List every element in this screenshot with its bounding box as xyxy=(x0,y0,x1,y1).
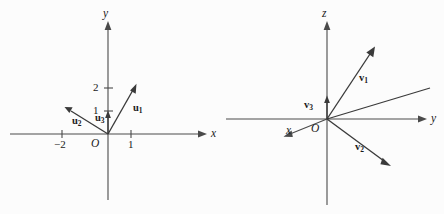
left-y-axis-label: y xyxy=(103,8,108,20)
vector-u3-label: u3 xyxy=(95,113,105,125)
right-x-axis-line xyxy=(290,119,327,134)
vector-u1-label: u1 xyxy=(133,103,143,115)
vector-v2-line xyxy=(327,119,384,161)
vector-u3-label-subscript: 3 xyxy=(101,116,105,125)
vector-v3-arrowhead xyxy=(324,96,330,104)
vector-v1-label-subscript: 1 xyxy=(364,76,368,85)
left-plot-group xyxy=(10,21,207,200)
vector-v2-label: v2 xyxy=(355,142,364,154)
right-y-axis-label: y xyxy=(431,113,436,125)
vector-u3-arrowhead xyxy=(105,111,111,119)
left-x-axis-arrowhead xyxy=(198,131,207,138)
left-y-tick-label-2: 2 xyxy=(93,82,99,93)
left-x-axis-label: x xyxy=(211,128,216,140)
vector-v1-line xyxy=(327,54,370,119)
vector-u2-arrowhead xyxy=(65,107,73,113)
right-z-axis-label: z xyxy=(322,8,326,20)
left-origin-label: O xyxy=(91,138,99,150)
vector-u2-label-subscript: 2 xyxy=(78,119,82,128)
vector-v1-arrowhead xyxy=(366,47,375,58)
vector-u2-label: u2 xyxy=(72,116,82,128)
vector-u1-line xyxy=(108,90,133,134)
left-x-tick-label-1: 1 xyxy=(128,139,134,150)
left-y-axis-arrowhead xyxy=(105,21,112,30)
vector-v3-label: v3 xyxy=(304,100,313,112)
vector-v2-label-subscript: 2 xyxy=(360,145,364,154)
vector-v1-label: v1 xyxy=(359,73,368,85)
right-origin-label: O xyxy=(311,123,319,135)
right-z-axis-arrowhead xyxy=(324,21,331,30)
diagram-canvas xyxy=(0,0,444,214)
right-plot-group xyxy=(226,21,430,205)
left-x-tick-label-minus2: −2 xyxy=(54,139,66,150)
vector-v3-label-subscript: 3 xyxy=(309,103,313,112)
right-x-axis-label: x xyxy=(286,125,291,137)
unlabeled-ray-line xyxy=(327,88,430,119)
right-y-axis-arrowhead xyxy=(418,116,427,123)
vector-u1-label-subscript: 1 xyxy=(139,106,143,115)
vector-diagram-figure: x y O −2 1 1 2 u1 u2 u3 y z x O v1 v2 v3 xyxy=(0,0,444,214)
